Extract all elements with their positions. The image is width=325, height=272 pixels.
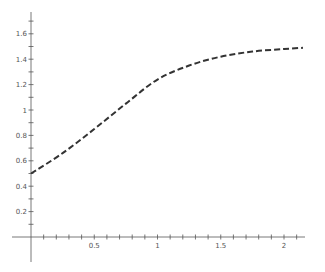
- x-tick-label: 1.5: [215, 242, 226, 250]
- y-tick-label: 1.6: [16, 30, 28, 38]
- data-curve: [31, 48, 303, 174]
- y-tick-label: 0.4: [16, 183, 28, 191]
- y-tick-label: 0.8: [16, 132, 27, 140]
- x-tick-label: 0.5: [89, 242, 100, 250]
- axes: [12, 12, 305, 262]
- y-tick-label: 1.4: [16, 56, 28, 64]
- y-tick-label: 0.2: [16, 208, 27, 216]
- axis-ticks: [29, 21, 297, 239]
- x-tick-label: 1: [155, 242, 159, 250]
- y-tick-label: 0.6: [16, 157, 28, 165]
- line-chart: 0.511.520.20.40.60.811.21.41.6: [0, 0, 325, 272]
- y-tick-label: 1.2: [16, 81, 27, 89]
- y-tick-label: 1: [23, 107, 27, 115]
- tick-labels: 0.511.520.20.40.60.811.21.41.6: [16, 30, 286, 250]
- x-tick-label: 2: [282, 242, 286, 250]
